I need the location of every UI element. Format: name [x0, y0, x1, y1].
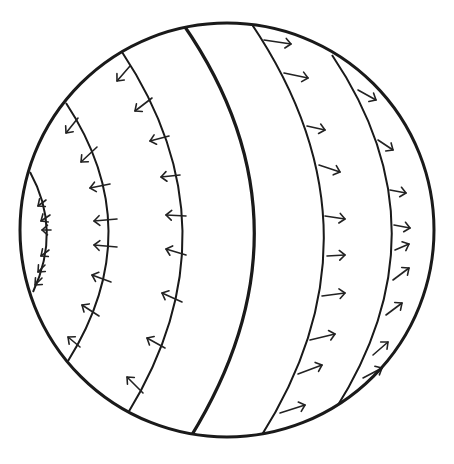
arrow-left-icon: [94, 241, 117, 251]
arrow-right-icon: [264, 38, 291, 48]
arrow-right-icon: [319, 165, 340, 175]
arrow-right-icon: [298, 362, 322, 374]
arrow-left-icon: [66, 118, 78, 133]
arrow-left-icon: [135, 98, 152, 112]
arrow-left-icon: [117, 66, 130, 81]
arrow-right-icon: [395, 242, 409, 251]
arrow-left-icon: [82, 304, 99, 316]
arrow-left-icon: [90, 182, 110, 191]
arrow-left-icon: [162, 291, 182, 302]
arrow-left-icon: [127, 377, 143, 393]
arrow-left-icon: [92, 272, 111, 282]
sphere-band-diagram: [0, 0, 454, 464]
arrow-left-icon: [94, 216, 117, 226]
arrow-right-icon: [393, 267, 409, 280]
diagram-canvas: [0, 0, 454, 464]
band-line-e: [251, 23, 324, 438]
arrow-right-icon: [325, 213, 345, 223]
band-line-f: [332, 55, 392, 410]
band-line-d: [183, 24, 254, 438]
band-lines: [30, 23, 392, 438]
sphere-outline: [20, 23, 434, 437]
arrow-left-icon: [42, 225, 51, 235]
arrow-right-icon: [310, 331, 335, 340]
arrow-right-icon: [284, 72, 308, 81]
arrow-right-icon: [378, 140, 393, 151]
arrow-right-icon: [386, 302, 402, 315]
band-line-c: [122, 52, 183, 413]
band-line-b: [66, 103, 109, 361]
arrow-right-icon: [373, 342, 388, 355]
arrow-right-icon: [322, 289, 345, 299]
arrow-right-icon: [358, 90, 376, 102]
arrow-right-icon: [307, 124, 325, 133]
arrow-right-icon: [390, 187, 406, 197]
arrow-right-icon: [280, 402, 305, 413]
arrow-right-icon: [327, 250, 345, 260]
arrow-right-icon: [394, 222, 410, 232]
